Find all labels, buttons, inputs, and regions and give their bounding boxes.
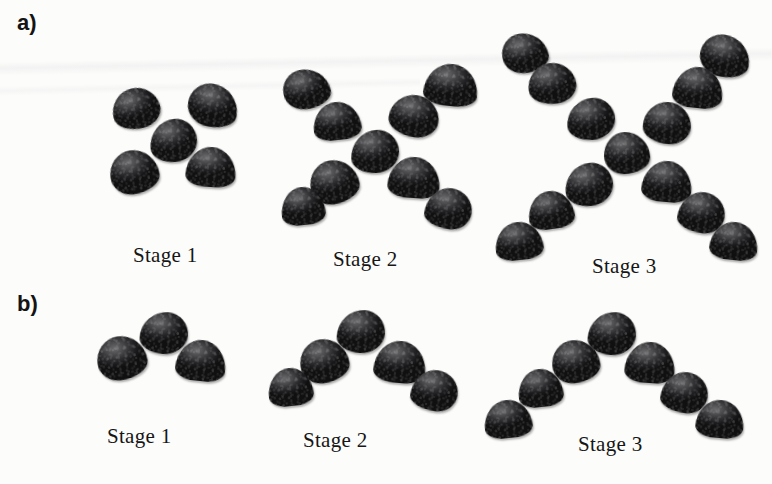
bean-body bbox=[550, 338, 602, 386]
bean-group-b-stage-3 bbox=[0, 0, 772, 484]
bean bbox=[694, 398, 745, 440]
bean-texture bbox=[694, 398, 745, 440]
bean bbox=[624, 340, 677, 384]
bean bbox=[550, 338, 602, 386]
bean-texture bbox=[516, 367, 565, 409]
bean-texture bbox=[587, 310, 638, 356]
bean-body bbox=[587, 310, 638, 356]
bean-texture bbox=[659, 369, 711, 415]
bean bbox=[659, 369, 711, 415]
bean-body bbox=[516, 367, 565, 409]
bean-texture bbox=[624, 340, 677, 384]
figure-canvas: a) b) Stage 1 Stage 2 Stage 3 Stage 1 St… bbox=[0, 0, 772, 484]
bean-texture bbox=[482, 398, 534, 441]
bean bbox=[516, 367, 565, 409]
bean bbox=[482, 398, 534, 441]
bean-body bbox=[694, 398, 745, 440]
bean-body bbox=[659, 369, 711, 415]
bean bbox=[587, 310, 638, 356]
bean-texture bbox=[550, 338, 602, 386]
bean-body bbox=[482, 398, 534, 441]
bean-body bbox=[624, 340, 677, 384]
